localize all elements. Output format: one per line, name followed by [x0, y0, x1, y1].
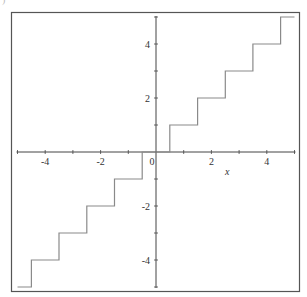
x-tick-label: -4 [41, 156, 49, 167]
y-tick-label: 2 [145, 93, 150, 104]
origin-label: 0 [150, 156, 155, 167]
y-tick-label: -2 [142, 201, 150, 212]
y-tick-label: -4 [142, 255, 150, 266]
step-function-plot: -4-2240-4-224 x [0, 0, 307, 297]
x-tick-label: 2 [209, 156, 214, 167]
y-tick-label: 4 [145, 39, 150, 50]
x-tick-label: 4 [264, 156, 269, 167]
x-axis-label: x [224, 166, 230, 177]
x-tick-label: -2 [96, 156, 104, 167]
